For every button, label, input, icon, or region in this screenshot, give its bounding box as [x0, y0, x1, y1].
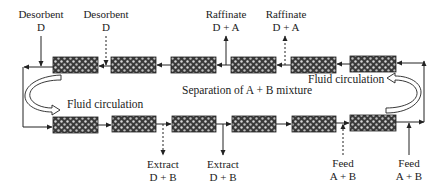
- desorbent-label-2: Desorbent D: [78, 8, 134, 34]
- column-bottom-2: [112, 116, 156, 132]
- center-label: Separation of A + B mixture: [182, 84, 312, 96]
- right-circulation-label: Fluid circulation: [308, 73, 384, 85]
- column-bottom-1: [53, 117, 98, 133]
- extract-label-2: Extract D + B: [200, 158, 246, 184]
- desorbent-name: Desorbent: [13, 8, 69, 21]
- feed-stream: A + B: [322, 170, 364, 183]
- left-circulation-arrow-icon: [25, 75, 61, 115]
- feed-label-1: Feed A + B: [322, 157, 364, 183]
- column-bottom-6: [350, 115, 396, 131]
- raffinate-stream: D + A: [200, 21, 252, 34]
- raffinate-label-1: Raffinate D + A: [200, 8, 252, 34]
- left-circulation-label: Fluid circulation: [67, 98, 143, 110]
- column-top-2: [111, 57, 156, 73]
- column-top-1: [53, 57, 98, 73]
- right-circulation-arrow-icon: [386, 73, 421, 113]
- feed-label-2: Feed A + B: [388, 157, 430, 183]
- feed-name: Feed: [322, 157, 364, 170]
- column-bottom-3: [172, 116, 216, 132]
- raffinate-stream: D + A: [260, 21, 312, 34]
- column-bottom-4: [232, 116, 276, 132]
- column-top-3: [171, 57, 216, 73]
- raffinate-name: Raffinate: [260, 8, 312, 21]
- column-top-4: [231, 57, 276, 73]
- extract-stream: D + B: [200, 171, 246, 184]
- column-top-5: [291, 57, 336, 73]
- extract-name: Extract: [140, 158, 186, 171]
- desorbent-stream: D: [78, 21, 134, 34]
- column-top-6: [350, 56, 396, 72]
- extract-stream: D + B: [140, 171, 186, 184]
- extract-label-1: Extract D + B: [140, 158, 186, 184]
- desorbent-label-1: Desorbent D: [13, 8, 69, 34]
- feed-name: Feed: [388, 157, 430, 170]
- desorbent-name: Desorbent: [78, 8, 134, 21]
- extract-name: Extract: [200, 158, 246, 171]
- raffinate-name: Raffinate: [200, 8, 252, 21]
- desorbent-stream: D: [13, 21, 69, 34]
- column-bottom-5: [292, 116, 336, 132]
- raffinate-label-2: Raffinate D + A: [260, 8, 312, 34]
- feed-stream: A + B: [388, 170, 430, 183]
